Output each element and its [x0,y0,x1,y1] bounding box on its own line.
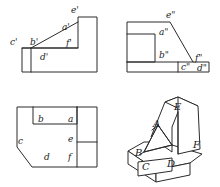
front-view-label-c: c' [10,37,18,47]
top-view: b a c d e f [0,94,110,187]
side-view-label-e: e" [166,10,175,20]
front-view-label-b: b' [30,37,38,47]
side-view-label-f: f" [194,53,202,63]
side-view-label-b: b" [159,50,169,60]
iso-label-c: C [142,161,150,172]
front-view-label-d: d' [40,52,48,62]
top-view-outline [17,107,97,167]
front-view-label-e: e' [71,5,79,15]
isometric-view: A B C D E F [110,94,220,187]
iso-label-b: B [134,147,142,158]
side-view: e" a" b" c" f" d" [110,0,220,94]
iso-label-d: D [166,158,175,169]
engineering-drawing-canvas: e' a' f' c' b' d' e" a" b" c" f" d" b a … [0,0,220,187]
top-view-label-a: a [68,114,73,124]
top-view-label-e: e [68,134,73,144]
iso-label-e: E [173,101,182,112]
side-view-label-c: c" [181,62,190,72]
front-view-label-a: a' [62,22,70,32]
iso-label-a: A [152,118,160,129]
side-view-label-a: a" [159,27,169,37]
side-view-label-d: d" [197,63,207,73]
iso-label-f: F [192,139,201,150]
top-view-label-b: b [38,114,44,124]
front-view-label-f: f' [65,38,72,48]
top-view-label-d: d [44,152,50,162]
front-view: e' a' f' c' b' d' [0,0,110,94]
top-view-label-c: c [18,136,23,146]
